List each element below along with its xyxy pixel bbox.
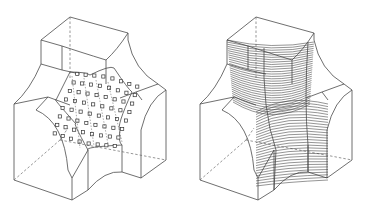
- panel-contour-lines: [0, 0, 372, 207]
- contour-line: [256, 137, 328, 145]
- contour-line: [256, 140, 328, 148]
- contour-line: [256, 180, 328, 186]
- parting-line: [306, 42, 308, 172]
- edge-line: [258, 190, 274, 200]
- figure: Cube with concave saddle corner cut, sho…: [0, 0, 372, 207]
- hidden-edge: [200, 140, 246, 180]
- edge-line: [200, 104, 258, 200]
- edge-line: [200, 64, 227, 104]
- contour-line: [256, 142, 328, 150]
- hidden-edge: [246, 128, 254, 140]
- edge-line: [314, 40, 344, 84]
- contour-geometry: [200, 17, 352, 200]
- edge-line: [327, 90, 352, 160]
